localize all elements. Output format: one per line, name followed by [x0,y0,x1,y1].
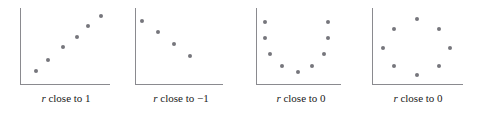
caption-text: close to 0 [281,92,326,104]
data-point [437,27,441,31]
panel-caption: r close to 0 [243,92,359,104]
plot-area [256,8,341,84]
correlation-scatterplot-figure: r close to 1r close to −1r close to 0r c… [0,0,477,116]
data-point [188,54,192,58]
data-point [415,73,419,77]
scatter-panel-2: r close to −1 [122,0,240,116]
data-point [437,64,441,68]
data-point [296,70,300,74]
caption-text: close to 0 [398,92,443,104]
data-point [322,52,326,56]
data-point [156,30,160,34]
data-point [61,45,65,49]
y-axis-line [135,8,136,84]
plot-area [20,8,110,84]
data-point [86,24,90,28]
panel-caption: r close to −1 [122,92,240,104]
data-point [310,64,314,68]
data-point [280,64,284,68]
data-point [326,20,330,24]
caption-text: close to 1 [46,92,91,104]
data-point [172,42,176,46]
data-point [448,46,452,50]
y-axis-line [256,8,257,84]
x-axis-line [372,84,463,85]
x-axis-line [20,84,110,85]
data-point [263,20,267,24]
data-point [75,35,79,39]
y-axis-line [20,8,21,84]
data-point [268,52,272,56]
x-axis-line [256,84,341,85]
data-point [46,58,50,62]
plot-area [372,8,463,84]
caption-text: close to −1 [158,92,209,104]
scatter-panel-1: r close to 1 [6,0,126,116]
data-point [381,46,385,50]
y-axis-line [372,8,373,84]
data-point [392,64,396,68]
panel-caption: r close to 1 [6,92,126,104]
data-point [99,14,103,18]
scatter-panel-3: r close to 0 [243,0,359,116]
data-point [263,36,267,40]
data-point [140,19,144,23]
data-point [326,36,330,40]
data-point [392,27,396,31]
data-point [415,17,419,21]
x-axis-line [135,84,223,85]
scatter-panel-4: r close to 0 [358,0,477,116]
data-point [34,69,38,73]
panel-caption: r close to 0 [358,92,477,104]
plot-area [135,8,223,84]
